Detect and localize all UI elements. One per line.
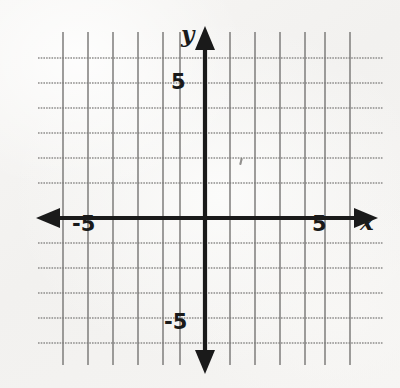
x-axis-label: x <box>360 210 374 233</box>
y-axis-arrow-down-icon <box>195 350 215 374</box>
y-axis-label: y <box>181 22 194 45</box>
x-axis-arrow-left-icon <box>36 208 60 228</box>
coordinate-plane-figure: y x 5 -5 -5 5 <box>0 0 400 388</box>
tick-label-y-positive-five: 5 <box>171 72 186 93</box>
tick-label-y-negative-five: -5 <box>164 312 187 333</box>
tick-label-x-positive-five: 5 <box>312 214 327 235</box>
y-axis <box>195 26 215 374</box>
grid-horizontal-lines <box>38 58 383 343</box>
y-axis-arrow-up-icon <box>195 26 215 50</box>
tick-label-x-negative-five: -5 <box>72 214 95 235</box>
coordinate-grid-svg <box>0 0 400 388</box>
